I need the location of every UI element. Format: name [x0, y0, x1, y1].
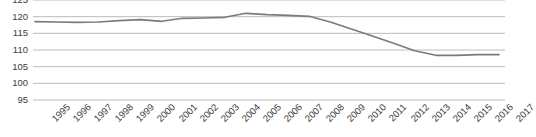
y-tick-label: 105: [12, 62, 28, 72]
x-tick-label: 2005: [261, 102, 283, 124]
x-tick-label: 2013: [430, 102, 452, 124]
x-tick-label: 2006: [282, 102, 304, 124]
series-index: [35, 13, 499, 55]
y-tick-label: 115: [13, 28, 28, 38]
x-tick-label: 2004: [240, 102, 262, 124]
y-axis: 95100105110115120125: [0, 0, 28, 100]
plot-area: [33, 0, 505, 100]
x-tick-label: 2009: [345, 102, 367, 124]
x-axis: 1995199619971998199920002001200220032004…: [33, 100, 505, 137]
x-tick-label: 2015: [472, 102, 494, 124]
data-series-line: [33, 0, 505, 100]
x-tick-label: 2001: [177, 102, 199, 124]
x-tick-label: 2017: [514, 102, 536, 124]
x-tick-label: 2014: [451, 102, 473, 124]
x-tick-label: 2002: [198, 102, 220, 124]
x-tick-label: 1995: [50, 102, 72, 124]
x-tick-label: 1999: [135, 102, 157, 124]
x-tick-label: 1997: [92, 102, 114, 124]
x-tick-label: 1996: [71, 102, 93, 124]
x-tick-label: 2008: [324, 102, 346, 124]
y-tick-label: 95: [17, 95, 28, 105]
x-tick-label: 2003: [219, 102, 241, 124]
x-tick-label: 1998: [113, 102, 135, 124]
x-tick-label: 2016: [493, 102, 515, 124]
y-tick-label: 100: [12, 78, 28, 88]
y-tick-label: 125: [12, 0, 28, 5]
x-tick-label: 2007: [303, 102, 325, 124]
y-tick-label: 120: [12, 12, 28, 22]
x-tick-label: 2012: [409, 102, 431, 124]
x-tick-label: 2010: [367, 102, 389, 124]
y-tick-label: 110: [13, 45, 28, 55]
x-tick-label: 2011: [387, 102, 408, 123]
x-tick-label: 2000: [156, 102, 178, 124]
